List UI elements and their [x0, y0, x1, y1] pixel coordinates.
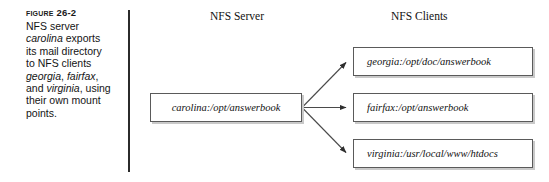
- node-box-server-carolina: carolina:/opt/answerbook: [150, 93, 302, 122]
- figure-caption: Figure 26-2 NFS server carolina exports …: [26, 7, 112, 119]
- node-label-server-carolina: carolina:/opt/answerbook: [172, 102, 281, 113]
- column-divider-rule: [128, 10, 130, 172]
- node-label-client-fairfax: fairfax:/opt/answerbook: [354, 102, 469, 113]
- figure-caption-text: NFS server carolina exports its mail dir…: [26, 20, 112, 119]
- figure-number-label: Figure 26-2: [26, 7, 112, 19]
- figure-canvas: Figure 26-2 NFS server carolina exports …: [0, 0, 549, 182]
- heading-nfs-server: NFS Server: [210, 10, 264, 22]
- heading-nfs-clients: NFS Clients: [391, 10, 448, 22]
- node-box-client-georgia: georgia:/opt/doc/answerbook: [353, 47, 533, 76]
- connector-server-to-virginia: [302, 108, 346, 153]
- node-label-client-virginia: virginia:/usr/local/www/htdocs: [354, 148, 498, 159]
- connector-server-to-georgia: [302, 63, 346, 108]
- node-box-client-virginia: virginia:/usr/local/www/htdocs: [353, 139, 533, 168]
- node-box-client-fairfax: fairfax:/opt/answerbook: [353, 93, 533, 122]
- node-label-client-georgia: georgia:/opt/doc/answerbook: [354, 56, 491, 67]
